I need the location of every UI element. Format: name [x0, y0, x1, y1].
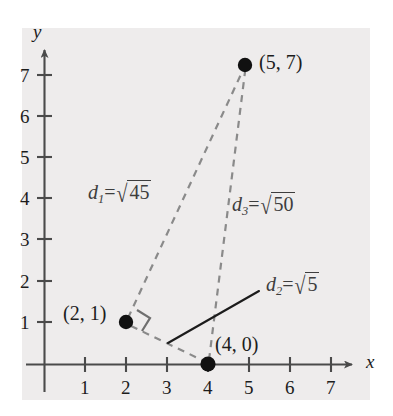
y-tick-6: 6	[20, 107, 30, 126]
y-tick-5: 5	[20, 148, 30, 167]
d2-radical-sign: √	[294, 273, 305, 297]
y-axis	[37, 50, 52, 392]
x-tick-7: 7	[326, 378, 336, 397]
point-4-0-dot	[200, 356, 215, 371]
point-5-7-dot	[238, 58, 252, 72]
d1-var: d	[88, 181, 98, 203]
y-tick-7: 7	[20, 66, 30, 85]
point-2-1-label: (2, 1)	[63, 303, 106, 323]
d1-subscript: 1	[98, 192, 104, 206]
d3-sqrt: √50	[259, 192, 295, 214]
x-tick-3: 3	[162, 378, 172, 397]
segment-d2-line	[131, 326, 206, 362]
d3-radical-sign: √	[260, 193, 271, 217]
point-2-1-dot	[119, 315, 133, 329]
point-5-7-label: (5, 7)	[259, 52, 302, 72]
x-axis	[26, 357, 352, 372]
x-tick-5: 5	[244, 378, 254, 397]
d2-radicand: 5	[305, 272, 319, 294]
segment-d1-label: d1=√45	[88, 180, 151, 202]
plot-canvas	[0, 0, 393, 416]
d1-equals: =	[104, 181, 115, 203]
x-tick-4: 4	[203, 378, 213, 397]
y-tick-4: 4	[20, 189, 30, 208]
d3-equals: =	[248, 193, 259, 215]
x-tick-1: 1	[80, 378, 90, 397]
y-axis-label: y	[33, 22, 41, 41]
d2-var: d	[266, 273, 276, 295]
y-tick-1: 1	[20, 313, 30, 332]
d3-var: d	[232, 193, 242, 215]
d1-radicand: 45	[127, 180, 151, 202]
y-tick-3: 3	[20, 230, 30, 249]
x-axis-label: x	[366, 352, 374, 371]
segment-d2-label: d2=√5	[266, 272, 319, 294]
x-tick-2: 2	[121, 378, 131, 397]
d1-radical-sign: √	[116, 181, 127, 205]
right-angle-marker	[137, 310, 150, 331]
d2-subscript: 2	[276, 284, 282, 298]
d3-radicand: 50	[271, 192, 295, 214]
d2-sqrt: √5	[293, 272, 319, 294]
y-tick-2: 2	[20, 272, 30, 291]
x-tick-6: 6	[285, 378, 295, 397]
coordinate-plane-figure: y x 1 2 3 4 5 6 7 7 6 5 4 3 2 1 (2, 1) (…	[0, 0, 393, 416]
d2-equals: =	[282, 273, 293, 295]
point-4-0-label: (4, 0)	[215, 334, 258, 354]
segment-d3-label: d3=√50	[232, 192, 295, 214]
d3-subscript: 3	[242, 204, 248, 218]
d1-sqrt: √45	[115, 180, 151, 202]
